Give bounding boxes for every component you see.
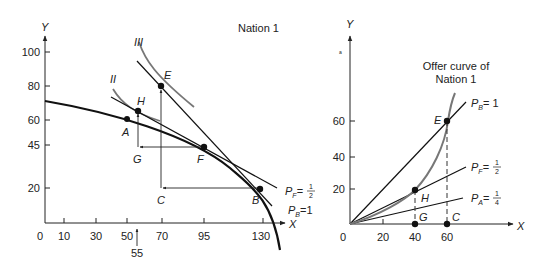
offer-curve [350,93,455,224]
svg-text:1: 1 [309,183,313,190]
label-c: C [157,194,165,206]
right-y-tick-20: 20 [333,183,345,195]
label-a: A [121,126,129,138]
svg-text:1: 1 [495,159,499,166]
y-tick-80: 80 [28,80,40,92]
right-panel-title-line1: Offer curve of [423,60,490,72]
point-c-right [444,221,450,227]
point-e-right [444,118,450,124]
right-panel: Y X a 60 40 20 0 20 40 60 Offer curve of… [333,18,525,243]
label-e: E [164,69,172,81]
right-x-tick-20: 20 [377,231,389,243]
left-y-ticks: 100 80 60 45 20 [22,46,50,194]
x-marker-55: 55 [131,247,143,259]
right-x-tick-40: 40 [409,231,421,243]
point-g-right [412,221,418,227]
x-tick-50: 50 [121,230,133,242]
left-x-axis-label: X [288,218,297,230]
label-iii: III [134,36,143,48]
label-e-right: E [434,114,442,126]
y-tick-60: 60 [28,114,40,126]
right-y-tick-40: 40 [333,151,345,163]
left-x-ticks: 0 10 30 50 70 95 130 55 [37,218,270,259]
point-h [135,108,141,114]
label-pb-right: PB= 1 [471,97,499,111]
point-f [201,144,207,150]
right-y-axis-label: Y [346,18,354,30]
x-tick-10: 10 [58,230,70,242]
svg-text:2: 2 [309,192,313,199]
right-y-axis-mark: a [339,49,342,55]
x-tick-0: 0 [37,230,43,242]
left-panel-title: Nation 1 [238,22,279,34]
diagram-canvas: Y X 100 80 60 45 20 0 10 30 50 7 [0,0,550,261]
production-frontier-curve [45,101,280,250]
point-e [158,83,164,89]
right-y-tick-60: 60 [333,115,345,127]
label-f: F [197,153,205,165]
point-h-right [412,187,418,193]
y-tick-100: 100 [22,46,40,58]
label-b: B [252,194,259,206]
price-line-pa-right [350,198,463,224]
label-ii: II [110,73,116,85]
y-tick-45: 45 [28,139,40,151]
left-panel: Y X 100 80 60 45 20 0 10 30 50 7 [22,21,315,259]
svg-text:PF=: PF= [285,185,303,199]
label-h-right: H [421,192,429,204]
label-pb-left: PB=1 [288,204,313,218]
svg-text:4: 4 [495,199,499,206]
x-tick-130: 130 [252,230,270,242]
svg-text:2: 2 [495,168,499,175]
point-a [124,116,130,122]
x-tick-95: 95 [198,230,210,242]
price-line-pb-left [137,61,272,206]
label-h: H [137,95,145,107]
right-panel-title-line2: Nation 1 [436,73,477,85]
label-g-right: G [419,211,428,223]
left-y-axis-label: Y [41,21,49,33]
svg-text:PF=: PF= [471,161,489,175]
right-x-tick-60: 60 [441,231,453,243]
svg-text:1: 1 [495,190,499,197]
x-tick-70: 70 [156,230,168,242]
svg-text:PA=: PA= [471,192,489,206]
right-x-tick-0: 0 [340,231,346,243]
x-tick-30: 30 [90,230,102,242]
svg-text:PB= 1: PB= 1 [471,97,499,111]
y-tick-20: 20 [28,182,40,194]
label-pf-right: PF= 1 2 [471,159,501,175]
label-pf-left: PF= 1 2 [285,183,315,199]
right-x-axis-label: X [516,220,525,232]
point-b [257,186,263,192]
label-pa-right: PA= 1 4 [471,190,501,206]
label-c-right: C [452,211,460,223]
label-g: G [133,153,142,165]
svg-text:PB=1: PB=1 [288,204,313,218]
